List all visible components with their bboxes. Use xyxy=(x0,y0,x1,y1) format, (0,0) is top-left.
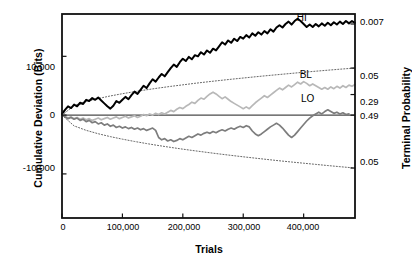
data-series-group xyxy=(62,19,355,142)
series-line-hi xyxy=(62,19,355,114)
upper-confidence-envelope xyxy=(62,68,355,115)
lower-confidence-envelope xyxy=(62,115,355,168)
